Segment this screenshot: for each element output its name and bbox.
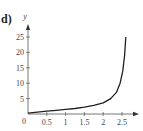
data-curve (28, 37, 126, 113)
y-tick-label: 25 (16, 33, 24, 42)
x-axis-arrow-icon (133, 112, 139, 116)
y-axis-arrow-icon (26, 24, 30, 30)
y-tick-label: 15 (16, 64, 24, 73)
x-tick-label: 0.5 (42, 118, 52, 127)
chart: y00.511.522.5510152025 (0, 0, 143, 131)
x-tick-label: 1.5 (79, 118, 89, 127)
y-tick-label: 20 (16, 48, 24, 57)
x-tick-label: 2.5 (117, 118, 127, 127)
y-tick-label: 10 (16, 79, 24, 88)
y-axis-label: y (22, 12, 27, 21)
origin-label: 0 (22, 117, 26, 126)
x-tick-label: 1 (64, 118, 68, 127)
y-tick-label: 5 (20, 95, 24, 104)
x-tick-label: 2 (101, 118, 105, 127)
